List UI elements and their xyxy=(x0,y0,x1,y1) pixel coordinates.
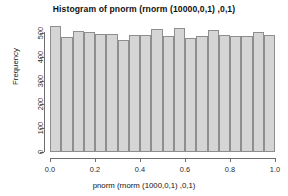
x-axis-title: pnorm (rnorm (1000,0,1) ,0,1) xyxy=(0,181,288,190)
histogram-bar xyxy=(50,26,61,152)
histogram-bar xyxy=(253,32,264,152)
histogram-bar xyxy=(196,36,207,152)
y-axis-title: Frequency xyxy=(11,32,20,102)
y-tick-label: 400 xyxy=(36,50,45,64)
histogram-bar xyxy=(163,36,174,152)
histogram-bar xyxy=(241,36,252,152)
histogram-bar xyxy=(230,36,241,152)
histogram-bar xyxy=(174,28,185,152)
y-tick-label: 100 xyxy=(36,121,45,135)
y-tick-label: 200 xyxy=(36,97,45,111)
histogram-bars xyxy=(50,26,275,152)
x-tick-label: 0.2 xyxy=(90,165,100,174)
y-tick-label: 0 xyxy=(36,145,45,159)
x-tick-label: 1.0 xyxy=(270,165,280,174)
histogram-bar xyxy=(264,35,275,152)
x-tick xyxy=(140,158,141,162)
histogram-bar xyxy=(95,34,106,152)
histogram-bar xyxy=(208,30,219,152)
histogram-bar xyxy=(151,29,162,152)
histogram-bar xyxy=(73,31,84,152)
x-axis-line xyxy=(50,158,275,159)
histogram-bar xyxy=(185,38,196,152)
x-tick xyxy=(50,158,51,162)
histogram-bar xyxy=(129,35,140,152)
chart-title: Histogram of pnorm (rnorm (10000,0,1) ,0… xyxy=(0,4,288,14)
histogram-bar xyxy=(61,37,72,152)
histogram-bar xyxy=(219,35,230,152)
x-tick-label: 0.6 xyxy=(180,165,190,174)
histogram-bar xyxy=(140,35,151,152)
x-tick-label: 0.0 xyxy=(45,165,55,174)
histogram-bar xyxy=(118,40,129,152)
x-tick-label: 0.8 xyxy=(225,165,235,174)
histogram-bar xyxy=(84,32,95,152)
x-tick xyxy=(95,158,96,162)
histogram-bar xyxy=(106,34,117,152)
y-tick-label: 300 xyxy=(36,74,45,88)
y-tick-label: 500 xyxy=(36,26,45,40)
x-tick xyxy=(230,158,231,162)
histogram-figure: Histogram of pnorm (rnorm (10000,0,1) ,0… xyxy=(0,0,288,196)
x-tick-label: 0.4 xyxy=(135,165,145,174)
x-tick xyxy=(275,158,276,162)
x-tick xyxy=(185,158,186,162)
plot-area xyxy=(50,26,275,152)
